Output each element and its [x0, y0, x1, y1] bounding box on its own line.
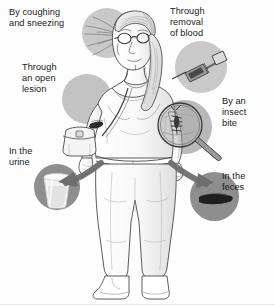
- label-through-an-open-lesion: Through an open lesion: [22, 62, 57, 96]
- label-through-removal-of-blood: Through removal of blood: [170, 6, 205, 40]
- label-by-an-insect-bite: By an insect bite: [222, 96, 246, 130]
- label-by-coughing-and-sneezing: By coughing and sneezing: [9, 7, 64, 29]
- transmission-diagram: By coughing and sneezing Through removal…: [0, 0, 275, 305]
- woman-figure: [0, 0, 275, 305]
- label-in-the-feces: In the feces: [222, 171, 245, 193]
- label-in-the-urine: In the urine: [9, 146, 32, 168]
